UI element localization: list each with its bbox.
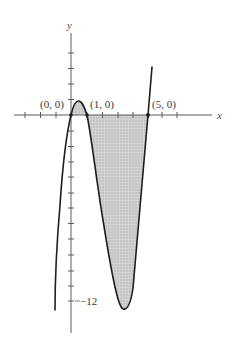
point-one — [85, 113, 89, 117]
shaded-area — [71, 101, 148, 309]
x-axis-label: x — [216, 109, 222, 121]
label-point-one: (1, 0) — [90, 98, 114, 111]
label-origin-point: (0, 0) — [40, 98, 64, 111]
y-axis-label: y — [66, 19, 72, 31]
point-origin — [69, 113, 73, 117]
point-five — [146, 113, 150, 117]
label-point-five: (5, 0) — [152, 98, 176, 111]
function-graph: x y −12 ( — [0, 0, 236, 348]
y-tick-label-minus-12: −12 — [80, 295, 97, 307]
y-axis: y −12 — [66, 19, 97, 333]
